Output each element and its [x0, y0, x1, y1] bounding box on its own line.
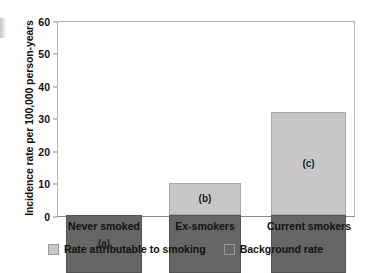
legend-swatch-attributable-icon [48, 244, 59, 255]
bar-current-smokers[interactable]: (c) [271, 56, 346, 273]
bar-never-smoked[interactable]: (a) [66, 56, 142, 273]
bar-annotation-c: (c) [272, 158, 345, 169]
bar-annotation-b: (b) [170, 193, 240, 204]
bar-ex-smokers-attributable-segment[interactable]: (b) [169, 183, 241, 215]
bars-layer: (a) (b) (c) [0, 0, 371, 273]
legend-swatch-background-icon [224, 244, 235, 255]
chart-legend: Rate attributable to smoking Background … [0, 243, 371, 255]
x-tick-label-current-smokers: Current smokers [249, 220, 369, 232]
legend-entry-attributable[interactable]: Rate attributable to smoking [48, 243, 206, 255]
legend-label-attributable: Rate attributable to smoking [64, 243, 206, 255]
incidence-rate-stacked-bar-chart: Incidence rate per 100,000 person-years … [0, 0, 371, 273]
bar-current-smokers-attributable-segment[interactable]: (c) [271, 112, 346, 215]
legend-label-background: Background rate [240, 243, 323, 255]
bar-ex-smokers[interactable]: (b) [169, 56, 241, 273]
x-tick-label-ex-smokers: Ex-smokers [145, 220, 265, 232]
legend-entry-background[interactable]: Background rate [224, 243, 323, 255]
